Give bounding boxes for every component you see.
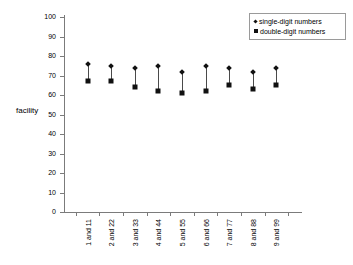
data-point-square (132, 85, 137, 90)
x-axis-tick (217, 212, 218, 216)
data-point-square (109, 79, 114, 84)
y-axis-title: facility (16, 106, 38, 116)
data-point-square (156, 89, 161, 94)
data-point-square (227, 83, 232, 88)
x-axis-tick (194, 212, 195, 216)
data-point-square (274, 83, 279, 88)
x-axis-category-label: 8 and 88 (250, 219, 258, 246)
legend-label-double-digit-numbers: double-digit numbers (260, 27, 325, 36)
y-axis-tick-label: 40 (48, 129, 56, 138)
y-axis-tick: 40 (60, 134, 65, 135)
data-point-diamond (226, 65, 232, 71)
y-axis-tick: 70 (60, 76, 65, 77)
x-axis-tick (76, 212, 77, 216)
x-axis-category-label: 2 and 22 (108, 219, 116, 246)
x-axis-tick (170, 212, 171, 216)
data-point-square (180, 91, 185, 96)
y-axis-tick: 50 (60, 115, 65, 116)
x-axis-category-label: 6 and 66 (203, 219, 211, 246)
legend-item-double-digit-numbers: double-digit numbers (253, 26, 343, 36)
data-point-diamond (179, 69, 185, 75)
y-axis-tick: 10 (60, 193, 65, 194)
y-axis-tick-label: 100 (44, 12, 56, 21)
x-axis-tick (288, 212, 289, 216)
y-axis-tick-label: 70 (48, 71, 56, 80)
legend-item-single-digit-numbers: single-digit numbers (253, 16, 343, 26)
y-axis-tick-label: 0 (52, 207, 56, 216)
y-axis-tick: 30 (60, 154, 65, 155)
x-axis-category-label: 7 and 77 (226, 219, 234, 246)
data-point-diamond (203, 63, 209, 69)
x-axis-category-label: 4 and 44 (155, 219, 163, 246)
x-axis-category-label: 9 and 99 (273, 219, 281, 246)
y-axis-tick: 20 (60, 173, 65, 174)
x-axis-tick (265, 212, 266, 216)
data-point-square (85, 79, 90, 84)
y-axis-tick-label: 80 (48, 51, 56, 60)
chart-legend: single-digit numbers double-digit number… (249, 13, 346, 40)
data-point-diamond (132, 65, 138, 71)
diamond-marker-icon (253, 19, 257, 23)
data-point-square (250, 87, 255, 92)
x-axis-tick (123, 212, 124, 216)
x-axis-category-label: 5 and 55 (179, 219, 187, 246)
x-axis-tick (147, 212, 148, 216)
data-point-diamond (156, 63, 162, 69)
x-axis-tick (99, 212, 100, 216)
data-point-diamond (274, 65, 280, 71)
y-axis-tick-label: 20 (48, 168, 56, 177)
data-point-diamond (108, 63, 114, 69)
y-axis-tick-label: 60 (48, 90, 56, 99)
y-axis-tick: 100 (60, 17, 65, 18)
chart-container: facility 1009080706050403020100 1 and 11… (0, 0, 353, 265)
data-connector-line (206, 66, 207, 91)
legend-label-single-digit-numbers: single-digit numbers (259, 17, 322, 26)
data-point-square (203, 89, 208, 94)
x-axis-category-label: 1 and 11 (85, 219, 93, 246)
x-axis-tick (241, 212, 242, 216)
y-axis-tick-label: 90 (48, 32, 56, 41)
plot-area: 1009080706050403020100 (64, 17, 300, 212)
y-axis-tick-label: 50 (48, 110, 56, 119)
y-axis-tick: 60 (60, 95, 65, 96)
x-axis-category-label: 3 and 33 (132, 219, 140, 246)
data-point-diamond (250, 69, 256, 75)
data-point-diamond (85, 61, 91, 67)
y-axis-tick-label: 10 (48, 188, 56, 197)
y-axis-tick: 90 (60, 37, 65, 38)
y-axis-tick-label: 30 (48, 149, 56, 158)
square-marker-icon (254, 29, 258, 33)
data-connector-line (158, 66, 159, 91)
y-axis-tick: 80 (60, 56, 65, 57)
y-axis-tick: 0 (60, 212, 65, 213)
